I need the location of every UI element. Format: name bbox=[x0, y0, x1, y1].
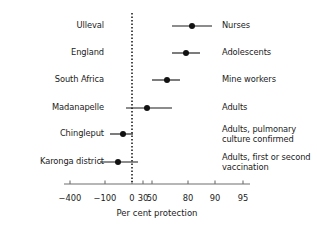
x-tick-label-50: 50 bbox=[147, 193, 158, 203]
point-estimate-marker-3 bbox=[144, 105, 150, 111]
group-label-5: Adults, first or second vaccination bbox=[222, 153, 317, 172]
x-tick-label--100: −100 bbox=[94, 193, 117, 203]
point-estimate-marker-1 bbox=[183, 50, 189, 56]
point-estimate-marker-4 bbox=[120, 131, 126, 137]
forest-plot-figure: UllevalEnglandSouth AfricaMadanapelleChi… bbox=[0, 0, 317, 225]
x-tick-label-0: 0 bbox=[129, 193, 134, 203]
x-tick-label-80: 80 bbox=[183, 193, 194, 203]
x-tick-label-95: 95 bbox=[238, 193, 249, 203]
point-estimate-marker-0 bbox=[189, 23, 195, 29]
group-label-3: Adults bbox=[222, 103, 317, 113]
group-label-1: Adolescents bbox=[222, 48, 317, 58]
group-label-2: Mine workers bbox=[222, 75, 317, 85]
x-tick-label-90: 90 bbox=[210, 193, 221, 203]
study-label-0: Ulleval bbox=[77, 21, 104, 31]
study-label-5: Karonga district bbox=[40, 157, 104, 167]
study-label-1: England bbox=[71, 48, 104, 58]
study-label-4: Chingleput bbox=[60, 129, 104, 139]
x-axis-title: Per cent protection bbox=[117, 208, 198, 218]
group-label-0: Nurses bbox=[222, 21, 317, 31]
point-estimate-marker-5 bbox=[115, 159, 121, 165]
study-label-2: South Africa bbox=[55, 75, 104, 85]
study-label-3: Madanapelle bbox=[52, 103, 104, 113]
group-label-4: Adults, pulmonary culture confirmed bbox=[222, 125, 317, 144]
point-estimate-marker-2 bbox=[164, 77, 170, 83]
x-tick-label--400: −400 bbox=[59, 193, 82, 203]
